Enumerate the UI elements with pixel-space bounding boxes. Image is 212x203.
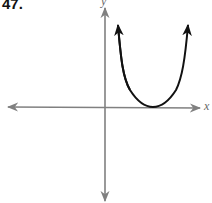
curve [118, 25, 188, 107]
graph [0, 0, 212, 203]
x-axis [8, 107, 200, 108]
